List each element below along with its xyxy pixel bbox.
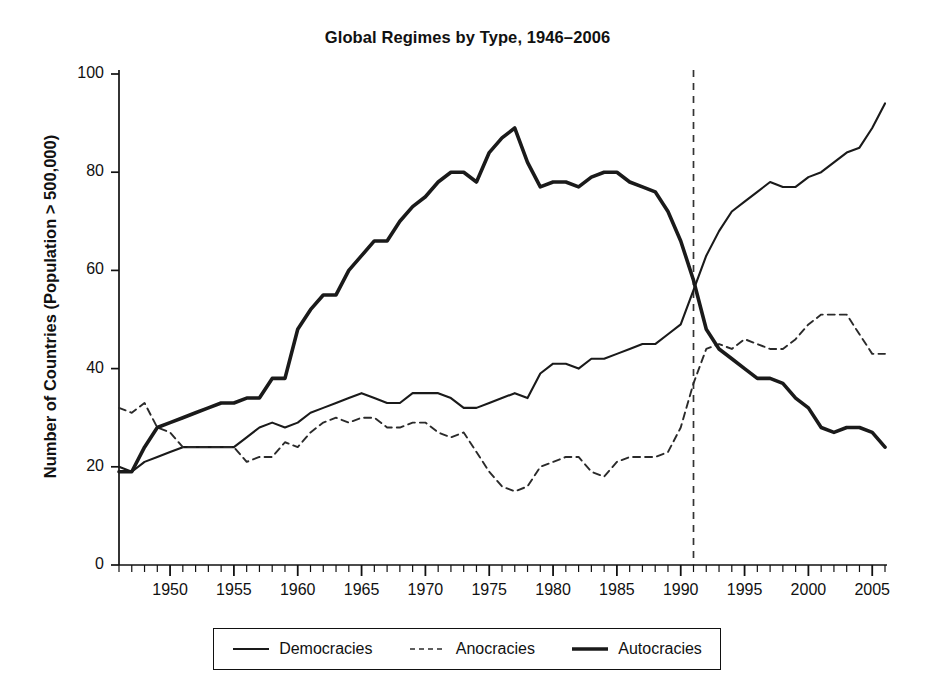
series-line-democracies [119,103,885,471]
legend-entry-anocracies: Anocracies [409,640,535,658]
legend-swatch-autocracies [571,644,609,654]
chart-title: Global Regimes by Type, 1946–2006 [0,28,935,47]
x-axis-tick-label: 2005 [842,581,902,599]
x-axis-tick-label: 1950 [140,581,200,599]
legend-entry-autocracies: Autocracies [571,640,702,658]
legend-swatch-anocracies [409,644,447,654]
x-axis-tick-label: 1985 [587,581,647,599]
chart-legend: Democracies Anocracies Autocracies [213,628,721,670]
x-axis-tick-label: 1960 [268,581,328,599]
series-line-autocracies [119,128,885,472]
x-axis-tick-label: 1955 [204,581,264,599]
y-axis-title: Number of Countries (Population > 500,00… [41,57,60,557]
x-axis-tick-label: 1965 [332,581,392,599]
x-axis-tick-label: 1980 [523,581,583,599]
legend-label-democracies: Democracies [279,640,372,658]
legend-entry-democracies: Democracies [232,640,372,658]
x-axis-tick-label: 1990 [651,581,711,599]
y-axis-tick-label: 40 [44,359,104,377]
legend-label-autocracies: Autocracies [618,640,702,658]
y-axis-tick-label: 0 [44,555,104,573]
y-axis-tick-label: 100 [44,64,104,82]
x-axis-tick-label: 1975 [459,581,519,599]
chart-figure: Global Regimes by Type, 1946–2006 Number… [0,0,935,698]
x-axis-tick-label: 2000 [778,581,838,599]
y-axis-tick-label: 20 [44,457,104,475]
y-axis-tick-label: 80 [44,162,104,180]
x-axis-tick-label: 1970 [395,581,455,599]
y-axis-tick-label: 60 [44,260,104,278]
legend-swatch-democracies [232,644,270,654]
x-axis-tick-label: 1995 [715,581,775,599]
legend-label-anocracies: Anocracies [456,640,535,658]
